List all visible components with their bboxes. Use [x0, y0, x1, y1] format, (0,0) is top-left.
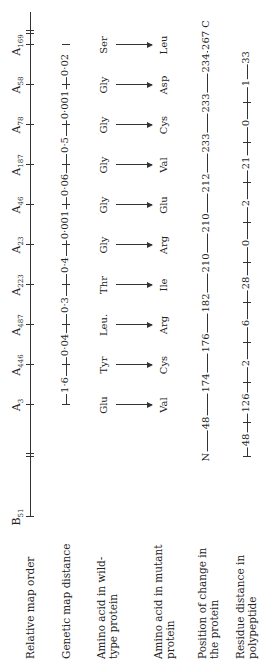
tick: [26, 30, 34, 31]
tick: [62, 84, 70, 85]
wild-type-residue: Leu.: [98, 313, 109, 337]
residue-distance-value: 2: [240, 199, 251, 207]
arrow-icon: [116, 84, 152, 85]
tick: [62, 404, 70, 405]
mutant-residue: Arg: [158, 315, 169, 335]
marker-label: A446: [10, 354, 25, 375]
marker-label: A23: [10, 237, 25, 254]
n-terminus: N: [200, 452, 211, 463]
wild-type-residue: Gly: [98, 196, 109, 215]
marker-b51: B51: [10, 508, 25, 525]
map-line: [30, 12, 31, 517]
wild-type-residue: Ser: [98, 35, 109, 55]
colinearity-figure: Relative map order B51 A3A446A487A223A23…: [0, 0, 274, 667]
wild-type-residue: Glu: [98, 395, 109, 415]
map-distance-row: 1·60·040·30·40·0010·060·50·0010·02: [60, 0, 74, 667]
tick: [62, 284, 70, 285]
tick: [243, 102, 251, 103]
tick: [26, 84, 34, 85]
marker-label: A223: [10, 274, 25, 295]
residue-distance-value: 48: [240, 433, 251, 448]
distance-value: 0·04: [59, 333, 70, 357]
marker-label: A487: [10, 314, 25, 335]
tick: [243, 182, 251, 183]
position-row: N48174176182210210212233233234267 C: [200, 0, 214, 667]
tick: [26, 164, 34, 165]
arrow-icon: [116, 284, 152, 285]
tick: [62, 44, 70, 45]
position-value: 210: [200, 212, 211, 233]
tick: [26, 33, 34, 34]
position-value: 233: [200, 92, 211, 113]
position-value: 174: [200, 372, 211, 393]
map-order-row: B51 A3A446A487A223A23A46A187A78A58A169: [18, 0, 32, 667]
mutant-residue: Cys: [158, 355, 169, 375]
distance-value: 0·3: [59, 296, 70, 314]
wild-type-residue: Thr: [98, 275, 109, 295]
tick: [62, 164, 70, 165]
tick: [26, 204, 34, 205]
mutant-row: ValCysArgIleArgGluValCysAspLeu: [158, 0, 172, 667]
tick: [26, 364, 34, 365]
break-tick: [26, 456, 34, 457]
residue-distance-row: 48126262802210133: [240, 0, 254, 667]
tick: [243, 302, 251, 303]
tick: [243, 222, 251, 223]
tick: [243, 142, 251, 143]
mutant-residue: Arg: [158, 235, 169, 255]
tick: [62, 364, 70, 365]
tick: [26, 516, 34, 517]
tick: [243, 262, 251, 263]
position-value: 234: [200, 52, 211, 73]
distance-value: 0·4: [59, 256, 70, 274]
residue-distance-value: 2: [240, 359, 251, 367]
position-value: 48: [200, 416, 211, 431]
mutant-residue: Ile: [158, 277, 169, 292]
residue-distance-value: 126: [240, 392, 251, 413]
position-value: 233: [200, 132, 211, 153]
distance-value: 0·001: [59, 210, 70, 241]
distance-value: 0·06: [59, 173, 70, 197]
tick: [26, 124, 34, 125]
position-value: 176: [200, 332, 211, 353]
position-value: 212: [200, 172, 211, 193]
marker-label: A58: [10, 77, 25, 94]
tick: [243, 342, 251, 343]
mutant-residue: Val: [158, 156, 169, 173]
c-terminus: 267 C: [200, 19, 211, 51]
marker-label: A46: [10, 197, 25, 214]
residue-distance-value: 0: [240, 119, 251, 127]
marker-label: A3: [10, 399, 25, 411]
wild-type-residue: Tyr: [98, 355, 109, 374]
mutant-residue: Cys: [158, 115, 169, 135]
position-value: 182: [200, 292, 211, 313]
residue-distance-value: 0: [240, 239, 251, 247]
tick: [62, 204, 70, 205]
arrow-icon: [116, 404, 152, 405]
arrow-icon: [116, 164, 152, 165]
arrow-icon: [116, 124, 152, 125]
marker-label: A78: [10, 117, 25, 134]
arrow-icon: [116, 204, 152, 205]
mutant-residue: Val: [158, 396, 169, 413]
residue-distance-value: 21: [240, 156, 251, 171]
wild-type-residue: Gly: [98, 236, 109, 255]
tick: [26, 284, 34, 285]
position-value: 210: [200, 252, 211, 273]
tick: [26, 324, 34, 325]
tick: [62, 324, 70, 325]
residue-distance-value: 1: [240, 79, 251, 87]
tick: [62, 244, 70, 245]
tick: [243, 456, 251, 457]
distance-value: 1·6: [59, 376, 70, 394]
tick: [243, 382, 251, 383]
wild-type-residue: Gly: [98, 156, 109, 175]
tick: [62, 124, 70, 125]
distance-value: 0·02: [59, 53, 70, 77]
arrow-icon: [116, 44, 152, 45]
wild-type-row: GluTyrLeu.ThrGlyGlyGlyGlyGlySer: [98, 0, 112, 667]
mutant-residue: Asp: [158, 75, 169, 96]
distance-value: 0·001: [59, 90, 70, 121]
residue-distance-value: 28: [240, 276, 251, 291]
residue-distance-value: 6: [240, 319, 251, 327]
